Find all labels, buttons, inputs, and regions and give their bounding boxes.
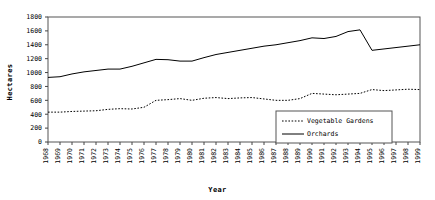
- x-tick-label: 1993: [342, 148, 350, 164]
- legend-box: Vegetable GardensOrchards: [276, 111, 392, 143]
- y-axis-ticks: 020040060080010001200140016001800: [26, 13, 48, 146]
- x-tick-label: 1987: [270, 148, 278, 164]
- series-line-orchards: [48, 30, 420, 78]
- x-tick-label: 1984: [234, 148, 242, 164]
- x-tick-label: 1983: [222, 148, 230, 164]
- series-line-vegetable-gardens: [48, 89, 420, 112]
- x-tick-label: 1982: [210, 148, 218, 164]
- x-tick-label: 1980: [186, 148, 194, 164]
- y-axis-title: Hectares: [6, 52, 14, 112]
- x-tick-label: 1981: [198, 148, 206, 164]
- x-tick-label: 1989: [294, 148, 302, 164]
- y-tick-label: 200: [30, 124, 42, 132]
- x-tick-label: 1979: [174, 148, 182, 164]
- legend-label-vegetable-gardens: Vegetable Gardens: [307, 117, 374, 125]
- x-tick-label: 1977: [150, 148, 158, 164]
- x-tick-label: 1998: [402, 148, 410, 164]
- y-tick-label: 0: [38, 138, 42, 146]
- x-tick-label: 1997: [390, 148, 398, 164]
- x-tick-label: 1996: [378, 148, 386, 164]
- chart-container: 020040060080010001200140016001800 196819…: [0, 0, 435, 200]
- y-tick-label: 1200: [26, 55, 42, 63]
- data-series-group: [48, 30, 420, 112]
- x-tick-label: 1975: [126, 148, 134, 164]
- x-tick-label: 1976: [138, 148, 146, 164]
- line-chart-plot: 020040060080010001200140016001800 196819…: [0, 0, 435, 200]
- y-tick-label: 1400: [26, 41, 42, 49]
- x-axis-ticks: 1968196919701971197219731974197519761977…: [42, 142, 422, 164]
- y-tick-label: 1600: [26, 27, 42, 35]
- x-tick-label: 1971: [78, 148, 86, 164]
- x-tick-label: 1970: [66, 148, 74, 164]
- y-tick-label: 800: [30, 83, 42, 91]
- x-tick-label: 1988: [282, 148, 290, 164]
- legend-label-orchards: Orchards: [307, 130, 338, 138]
- x-tick-label: 1990: [306, 148, 314, 164]
- x-tick-label: 1994: [354, 148, 362, 164]
- x-tick-label: 1986: [258, 148, 266, 164]
- x-tick-label: 1974: [114, 148, 122, 164]
- y-tick-label: 400: [30, 111, 42, 119]
- y-tick-label: 1000: [26, 69, 42, 77]
- x-axis-title: Year: [0, 186, 435, 194]
- x-tick-label: 1992: [330, 148, 338, 164]
- x-tick-label: 1995: [366, 148, 374, 164]
- x-tick-label: 1969: [54, 148, 62, 164]
- x-tick-label: 1973: [102, 148, 110, 164]
- x-tick-label: 1972: [90, 148, 98, 164]
- x-tick-label: 1999: [414, 148, 422, 164]
- y-tick-label: 1800: [26, 13, 42, 21]
- x-tick-label: 1978: [162, 148, 170, 164]
- y-tick-label: 600: [30, 97, 42, 105]
- x-tick-label: 1985: [246, 148, 254, 164]
- x-tick-label: 1991: [318, 148, 326, 164]
- x-tick-label: 1968: [42, 148, 50, 164]
